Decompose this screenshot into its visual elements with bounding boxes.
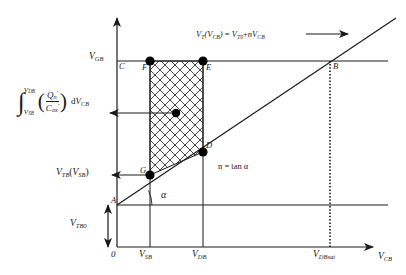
point-label-A: A bbox=[111, 196, 116, 205]
paren-open: ( bbox=[38, 93, 45, 110]
x-tick-vdb: VDB bbox=[192, 250, 206, 260]
vtb-axis-label: VTB(VSB) bbox=[56, 168, 89, 178]
point-label-B: B bbox=[333, 62, 338, 71]
point-marker-G bbox=[145, 170, 154, 179]
point-label-C: C bbox=[119, 62, 125, 71]
vtb0-measure-label: VTB0 bbox=[70, 219, 87, 229]
vgb-axis-label: VGB bbox=[89, 52, 103, 62]
charge-capacitance-fraction: Qn′ Cox′ bbox=[46, 90, 59, 114]
paren-close: ) bbox=[60, 93, 67, 110]
origin-label: 0 bbox=[111, 250, 116, 259]
x-tick-vsb: VSB bbox=[139, 250, 152, 260]
x-axis-name: VCB bbox=[378, 252, 392, 262]
diagram-graphics bbox=[0, 0, 406, 275]
fraction-numerator: Qn′ bbox=[47, 90, 58, 101]
point-label-E: E bbox=[206, 63, 211, 72]
threshold-equation: VT(VCB) = VT0+nVCB bbox=[196, 30, 265, 40]
point-label-G: G bbox=[140, 166, 146, 175]
point-label-F: F bbox=[142, 63, 147, 72]
differential-term: dVCB bbox=[71, 96, 89, 107]
hatched-region bbox=[150, 61, 203, 175]
alpha-angle-label: α bbox=[161, 190, 166, 200]
figure-canvas: VT(VCB) = VT0+nVCB ∫ VDB VSB ( Qn′ Cox′ … bbox=[0, 0, 406, 275]
slope-note-label: n = tan α bbox=[218, 162, 248, 171]
x-tick-vdbsat: VDBsat bbox=[313, 250, 335, 260]
integral-upper-limit: VDB bbox=[24, 86, 35, 94]
integral-limits: VDB VSB bbox=[24, 88, 35, 115]
fraction-denominator: Cox′ bbox=[46, 103, 59, 114]
integral-lower-limit: VSB bbox=[24, 108, 35, 116]
integral-expression: ∫ VDB VSB ( Qn′ Cox′ ) dVCB bbox=[18, 88, 89, 115]
center-region-marker bbox=[172, 109, 180, 117]
point-label-D: D bbox=[206, 141, 212, 150]
